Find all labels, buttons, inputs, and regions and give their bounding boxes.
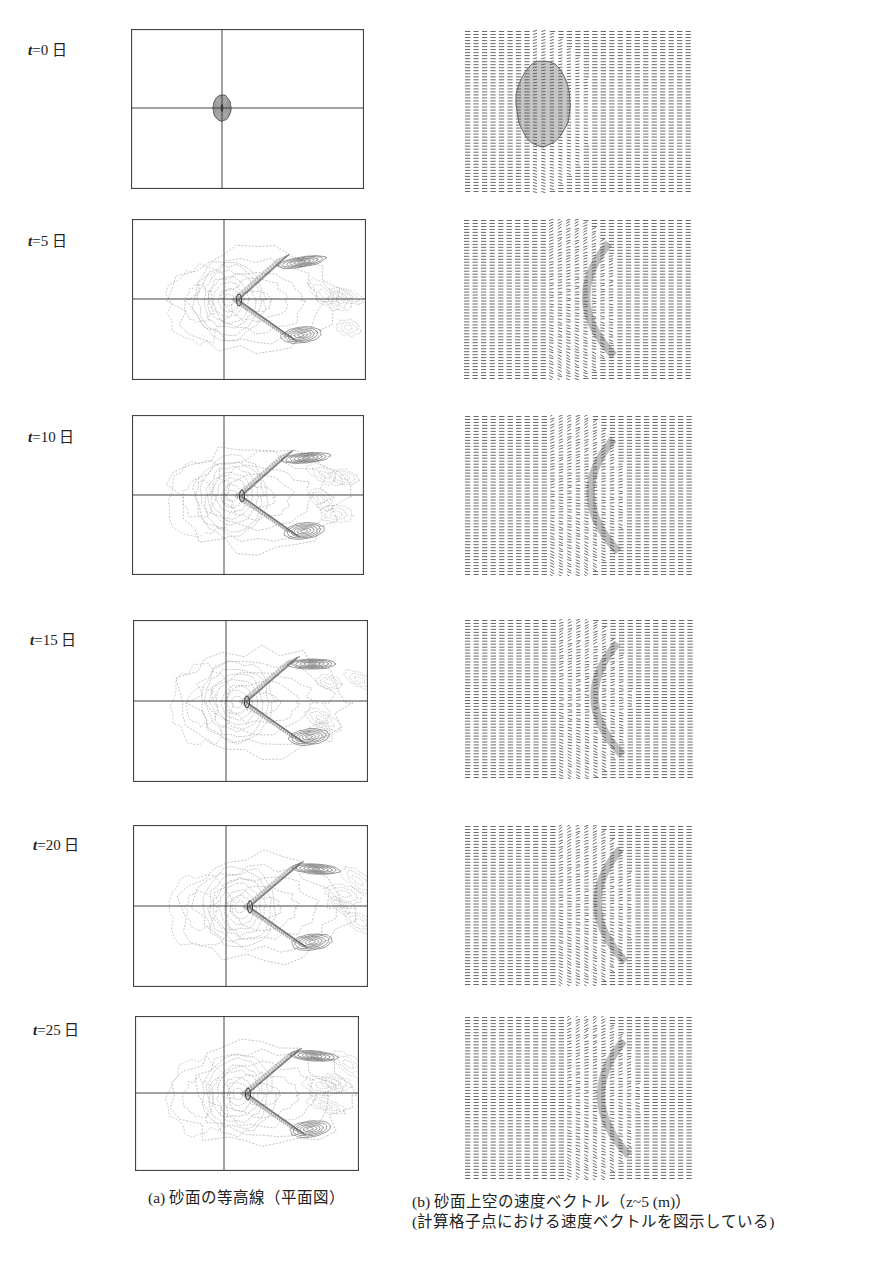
caption-b-line2: (計算格子点における速度ベクトルを図示している)	[412, 1212, 774, 1232]
time-label: t=5 日	[28, 229, 67, 250]
contour-plot-panel	[132, 219, 366, 380]
time-label: t=10 日	[28, 425, 74, 446]
time-value: =10 日	[32, 429, 74, 445]
time-label: t=20 日	[33, 833, 79, 854]
velocity-vector-panel	[463, 619, 694, 779]
caption-b-line1: (b) 砂面上空の速度ベクトル（z~5 (m)）	[412, 1192, 691, 1212]
time-label: t=25 日	[33, 1018, 79, 1039]
time-value: =5 日	[32, 233, 67, 249]
time-value: =15 日	[34, 632, 76, 648]
velocity-vector-panel	[462, 219, 692, 380]
time-label: t=0 日	[28, 38, 67, 59]
contour-plot-panel	[133, 825, 368, 987]
velocity-vector-panel	[463, 1016, 693, 1180]
contour-plot-panel	[132, 415, 364, 575]
contour-plot-panel	[133, 620, 368, 782]
contour-plot-panel	[135, 1016, 359, 1171]
caption-a: (a) 砂面の等高線（平面図）	[148, 1188, 345, 1208]
time-label: t=15 日	[30, 628, 76, 649]
time-value: =25 日	[37, 1022, 79, 1038]
time-value: =20 日	[37, 837, 79, 853]
velocity-vector-panel	[463, 30, 692, 193]
contour-plot-panel	[131, 29, 364, 189]
time-value: =0 日	[32, 42, 67, 58]
velocity-vector-panel	[463, 825, 693, 986]
velocity-vector-panel	[463, 415, 693, 576]
